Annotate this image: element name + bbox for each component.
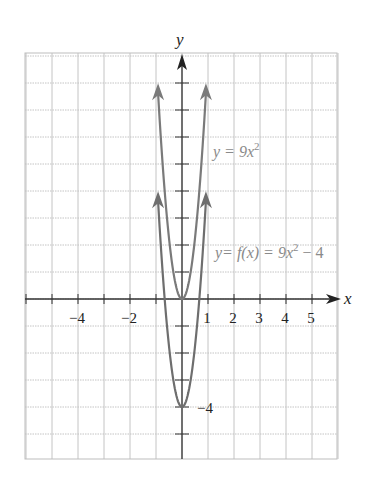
tick-labels: −4−212345 [69,310,315,326]
x-tick-label: 4 [281,310,289,326]
axes [25,54,341,459]
parabola-graph: −4−212345 y x y = 9x2 y= f(x) = 9x2 − 4 … [0,0,379,481]
curve2-label-text: y= f(x) = 9x [213,244,293,262]
y-tick-label-minus4: −4 [197,400,213,416]
x-tick-label: 5 [307,310,315,326]
x-tick-label: −2 [121,310,137,326]
x-tick-label: −4 [69,310,85,326]
curve1-label-exponent: 2 [254,140,260,152]
curve1-label-text: y = 9x [211,143,254,161]
curve1-label: y = 9x2 [211,140,260,161]
x-tick-label: 1 [203,310,211,326]
curve2-label: y= f(x) = 9x2 − 4 [213,241,324,262]
y-axis-label: y [174,30,184,49]
curve2-label-tail: − 4 [299,244,324,261]
x-tick-label: 3 [255,310,263,326]
x-tick-label: 2 [229,310,237,326]
x-axis-label: x [343,289,352,308]
